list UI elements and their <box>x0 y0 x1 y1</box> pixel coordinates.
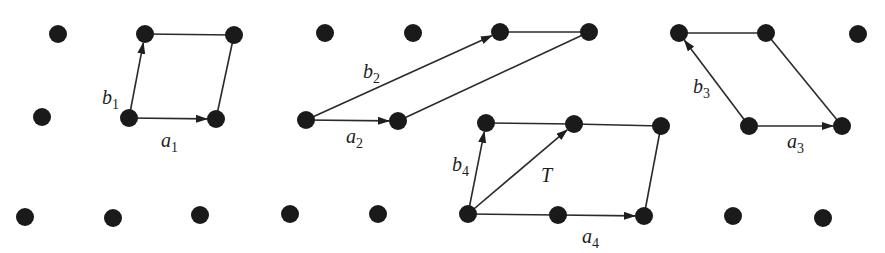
cell-edge <box>574 124 661 126</box>
vector-arrow <box>558 215 635 216</box>
lattice-point <box>833 117 851 135</box>
lattice-point <box>33 108 51 126</box>
lattice-point <box>814 209 832 227</box>
lattice-point <box>477 114 495 132</box>
lattice-point <box>635 207 653 225</box>
lattice-points <box>16 23 867 227</box>
vector-arrow <box>306 120 389 121</box>
cell-edge <box>486 123 574 124</box>
label-T: T <box>541 164 554 186</box>
label-b4: b4 <box>452 153 469 179</box>
label-a4: a4 <box>582 225 599 251</box>
label-b1: b1 <box>102 86 119 112</box>
cell-edge <box>468 214 558 215</box>
cell-edge <box>145 34 234 35</box>
lattice-point <box>404 24 422 42</box>
lattice-point <box>491 23 509 41</box>
lattice-point <box>281 205 299 223</box>
vector-labels: b1a1b2a2b3a3b4Ta4 <box>102 60 804 251</box>
lattice-point <box>849 25 867 43</box>
cell-edge <box>766 33 842 126</box>
lattice-point <box>16 208 34 226</box>
lattice-point <box>369 205 387 223</box>
lattice-point <box>459 205 477 223</box>
lattice-point <box>49 25 67 43</box>
lattice-point <box>316 24 334 42</box>
lattice-point <box>757 24 775 42</box>
lattice-point <box>652 117 670 135</box>
cell-edge <box>398 32 589 121</box>
vector-arrow <box>129 118 207 119</box>
lattice-point <box>120 109 138 127</box>
lattice-point <box>389 112 407 130</box>
lattice-point <box>207 110 225 128</box>
label-b2: b2 <box>363 60 380 86</box>
label-a2: a2 <box>346 125 363 151</box>
lattice-point <box>136 25 154 43</box>
lattice-point <box>225 26 243 44</box>
lattice-point <box>191 206 209 224</box>
lattice-point <box>549 206 567 224</box>
lattice-point <box>724 207 742 225</box>
lattice-point <box>565 115 583 133</box>
vector-arrow <box>306 36 492 120</box>
cell-edge <box>216 35 234 119</box>
lattice-point <box>740 117 758 135</box>
label-a1: a1 <box>161 129 178 155</box>
lattice-point <box>297 111 315 129</box>
lattice-point <box>104 209 122 227</box>
vector-arrow <box>129 43 143 118</box>
label-a3: a3 <box>787 130 804 156</box>
label-b3: b3 <box>693 75 710 101</box>
lattice-point <box>580 23 598 41</box>
cell-edge <box>644 126 661 216</box>
lattice-diagram: b1a1b2a2b3a3b4Ta4 <box>0 0 885 253</box>
lattice-point <box>670 24 688 42</box>
